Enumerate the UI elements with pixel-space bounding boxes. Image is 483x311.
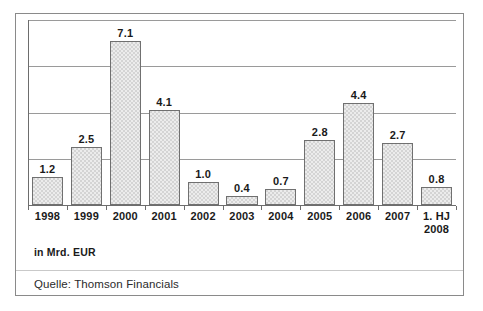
x-axis-category-line: 2001	[145, 210, 184, 223]
bar-slot: 1.2	[28, 19, 67, 205]
bar[interactable]	[32, 177, 63, 205]
bar[interactable]	[304, 140, 335, 205]
x-axis-category-line: 2005	[300, 210, 339, 223]
x-axis-category-line: 1998	[28, 210, 67, 223]
bar-slot: 2.5	[67, 19, 106, 205]
x-axis-category-label: 2000	[106, 210, 145, 223]
x-axis-category-line: 2004	[261, 210, 300, 223]
x-axis-category-line: 2002	[184, 210, 223, 223]
bar[interactable]	[71, 147, 102, 205]
bar-slot: 2.8	[300, 19, 339, 205]
bar-value-label: 2.7	[378, 129, 417, 141]
x-axis-line	[28, 205, 456, 206]
bar-value-label: 0.4	[223, 182, 262, 194]
x-axis-category-line: 2007	[378, 210, 417, 223]
source-note-label: Quelle: Thomson Financials	[34, 278, 179, 290]
bar-slot: 0.8	[417, 19, 456, 205]
bar[interactable]	[149, 110, 180, 205]
bar[interactable]	[226, 196, 257, 205]
bar[interactable]	[265, 189, 296, 205]
x-axis-tick	[456, 206, 457, 210]
unit-note-label: in Mrd. EUR	[34, 246, 96, 258]
bar-slot: 7.1	[106, 19, 145, 205]
x-axis-category-labels: 1998199920002001200220032004200520062007…	[28, 210, 456, 246]
x-axis-category-line: 2006	[339, 210, 378, 223]
bar-value-label: 4.1	[145, 96, 184, 108]
bar-slot: 4.1	[145, 19, 184, 205]
bar[interactable]	[343, 103, 374, 205]
x-axis-category-label: 1998	[28, 210, 67, 223]
plot-area: 1.22.57.14.11.00.40.72.84.42.70.8	[28, 20, 456, 206]
x-axis-category-line: 2008	[417, 223, 456, 236]
bar-value-label: 4.4	[339, 89, 378, 101]
x-axis-category-label: 2007	[378, 210, 417, 223]
x-axis-category-label: 2005	[300, 210, 339, 223]
bar-slot: 4.4	[339, 19, 378, 205]
x-axis-category-label: 1999	[67, 210, 106, 223]
x-axis-category-label: 2001	[145, 210, 184, 223]
bar-slot: 0.7	[261, 19, 300, 205]
bar[interactable]	[110, 41, 141, 205]
source-divider	[16, 270, 463, 271]
x-axis-category-line: 2003	[223, 210, 262, 223]
x-axis-category-label: 2006	[339, 210, 378, 223]
x-axis-category-label: 2002	[184, 210, 223, 223]
bar-slot: 0.4	[223, 19, 262, 205]
x-axis-category-label: 2003	[223, 210, 262, 223]
bar-value-label: 0.8	[417, 173, 456, 185]
x-axis-category-line: 1. HJ	[417, 210, 456, 223]
bar[interactable]	[421, 187, 452, 206]
bar-value-label: 2.5	[67, 133, 106, 145]
bar-value-label: 1.2	[28, 163, 67, 175]
bar-slot: 2.7	[378, 19, 417, 205]
bar-value-label: 1.0	[184, 168, 223, 180]
x-axis-category-label: 1. HJ2008	[417, 210, 456, 236]
x-axis-category-label: 2004	[261, 210, 300, 223]
y-axis-line	[28, 20, 29, 206]
x-axis-category-line: 1999	[67, 210, 106, 223]
x-axis-category-line: 2000	[106, 210, 145, 223]
bar-value-label: 7.1	[106, 27, 145, 39]
bar[interactable]	[382, 143, 413, 205]
bar-value-label: 2.8	[300, 126, 339, 138]
chart-figure: 1.22.57.14.11.00.40.72.84.42.70.8 199819…	[15, 13, 464, 296]
bar[interactable]	[188, 182, 219, 205]
bar-slot: 1.0	[184, 19, 223, 205]
bar-value-label: 0.7	[261, 175, 300, 187]
